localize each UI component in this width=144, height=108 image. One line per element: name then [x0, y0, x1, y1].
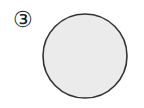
gray-circle-shape [43, 14, 127, 98]
circle-diagram [0, 0, 144, 108]
